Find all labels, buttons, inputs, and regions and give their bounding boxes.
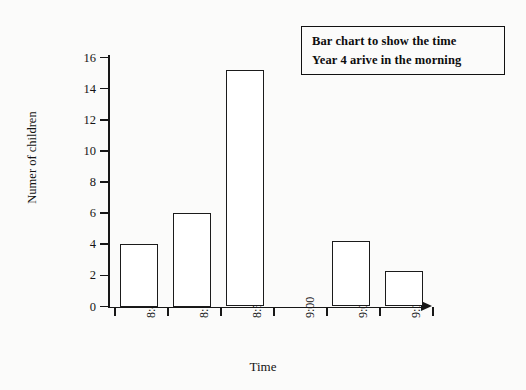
x-axis-tick <box>379 307 381 316</box>
y-axis-tick <box>100 275 108 277</box>
y-axis-tick-label: 14 <box>68 83 96 96</box>
x-axis-tick <box>326 307 328 316</box>
bar <box>120 244 158 306</box>
y-axis-tick <box>100 306 108 308</box>
x-axis-tick <box>167 307 169 316</box>
y-axis-tick-label: 8 <box>68 176 96 189</box>
y-axis-tick <box>100 88 108 90</box>
y-axis-tick-label: 0 <box>68 301 96 314</box>
chart-title-line-1: Bar chart to show the time <box>312 32 504 51</box>
y-axis-tick-label: 10 <box>68 145 96 158</box>
y-axis-tick <box>100 119 108 121</box>
y-axis-tick <box>100 150 108 152</box>
y-axis-tick-label: 4 <box>68 238 96 251</box>
y-axis-tick <box>100 243 108 245</box>
x-axis-tick <box>220 307 222 316</box>
x-axis-tick <box>432 307 434 316</box>
y-axis-tick-label: 12 <box>68 114 96 127</box>
chart-title-box: Bar chart to show the time Year 4 arive … <box>301 26 505 75</box>
bar <box>226 70 264 307</box>
bar <box>332 241 370 306</box>
y-axis-tick <box>100 57 108 59</box>
bar <box>173 213 211 306</box>
y-axis-tick-label: 16 <box>68 52 96 65</box>
x-axis-tick-label: 9:00 <box>303 297 318 318</box>
y-axis-tick <box>100 181 108 183</box>
y-axis-tick-label: 6 <box>68 207 96 220</box>
x-axis-title: Time <box>0 359 526 375</box>
y-axis-tick-label: 2 <box>68 269 96 282</box>
bar <box>385 271 423 307</box>
x-axis-tick <box>273 307 275 316</box>
y-axis-title: Numer of children <box>25 98 40 218</box>
y-axis-line <box>108 55 110 308</box>
bar-chart: Bar chart to show the time Year 4 arive … <box>0 0 526 390</box>
x-axis-tick <box>114 307 116 316</box>
chart-title-line-2: Year 4 arive in the morning <box>312 51 504 70</box>
y-axis-tick <box>100 212 108 214</box>
